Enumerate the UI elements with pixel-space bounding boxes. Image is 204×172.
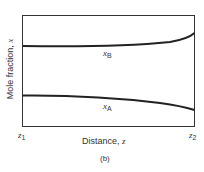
- x-axis-label: Distance, z: [82, 136, 126, 146]
- x-tick-z2: z2: [189, 130, 196, 141]
- y-axis-label: Mole fraction, x: [5, 29, 15, 109]
- figure-caption: (b): [100, 154, 110, 163]
- series-label-xa: xA: [103, 101, 112, 112]
- chart-plot-area: [0, 0, 204, 172]
- series-xb-line: [23, 33, 195, 46]
- series-label-xb: xB: [103, 48, 112, 59]
- x-tick-z1: z1: [18, 130, 25, 141]
